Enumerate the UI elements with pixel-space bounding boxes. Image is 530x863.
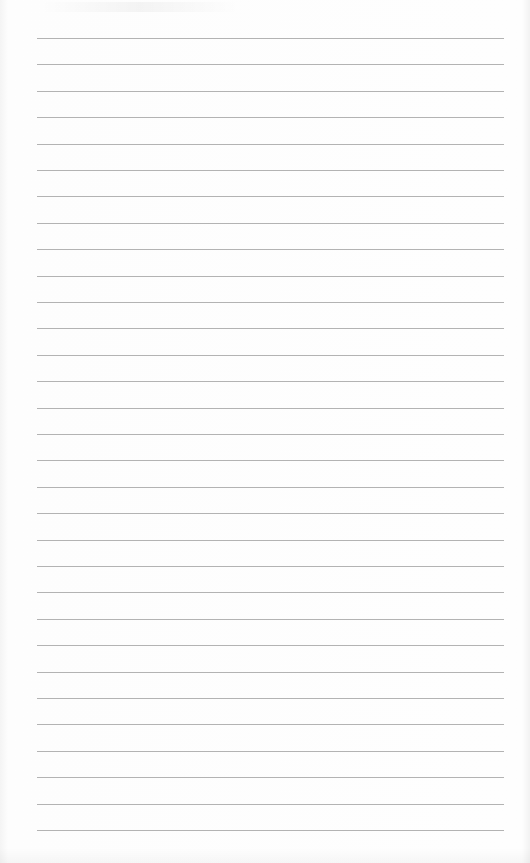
ruled-line [37, 355, 504, 356]
ruled-line [37, 117, 504, 118]
ruled-line [37, 645, 504, 646]
ruled-line [37, 249, 504, 250]
ruled-line [37, 38, 504, 39]
ruled-line [37, 223, 504, 224]
ruled-line [37, 724, 504, 725]
ruled-line [37, 830, 504, 831]
ruled-line [37, 698, 504, 699]
ruled-line [37, 619, 504, 620]
ruled-line [37, 434, 504, 435]
ruled-line [37, 408, 504, 409]
ruled-line [37, 592, 504, 593]
ruled-line [37, 751, 504, 752]
ruled-line [37, 144, 504, 145]
bottom-edge-shadow [0, 848, 530, 863]
ruled-line [37, 64, 504, 65]
notebook-page [0, 0, 530, 863]
ruled-line [37, 91, 504, 92]
ruled-line [37, 566, 504, 567]
ruled-line [37, 777, 504, 778]
ruled-line [37, 540, 504, 541]
ruled-line [37, 513, 504, 514]
ruled-line [37, 276, 504, 277]
bleed-through-mark [40, 2, 240, 12]
ruled-line [37, 328, 504, 329]
ruled-line [37, 804, 504, 805]
ruled-line [37, 672, 504, 673]
ruled-line [37, 196, 504, 197]
ruled-line [37, 487, 504, 488]
ruled-line [37, 170, 504, 171]
ruled-line [37, 302, 504, 303]
ruled-line [37, 381, 504, 382]
ruled-line [37, 460, 504, 461]
